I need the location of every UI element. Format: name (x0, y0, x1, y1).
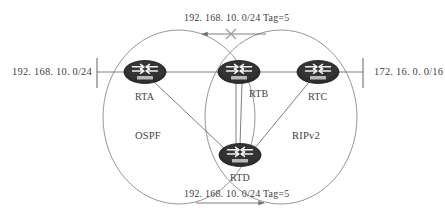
router-node-rtd[interactable] (219, 144, 261, 167)
router-node-rta[interactable] (124, 61, 166, 84)
zone-label-ripv2: RIPv2 (292, 130, 320, 141)
route-annotation-top-label: 192. 168. 10. 0/24 Tag=5 (184, 12, 289, 23)
router-node-rtc[interactable] (297, 61, 339, 84)
router-label-rta: RTA (135, 91, 154, 102)
route-annotation-bottom-label: 192. 168. 10. 0/24 Tag=5 (184, 188, 289, 199)
router-label-rtc: RTC (308, 91, 327, 102)
zone-ellipse-ripv2 (205, 30, 357, 204)
network-topology-diagram: 192. 168. 10. 0/24 Tag=5 192. 168. 10. 0… (0, 0, 445, 219)
router-label-rtb: RTB (249, 88, 268, 99)
router-node-rtb[interactable] (218, 61, 260, 84)
diagram-canvas (0, 0, 445, 219)
link-rtb-rtd (236, 83, 242, 145)
network-label-left: 192. 168. 10. 0/24 (12, 66, 92, 77)
router-label-rtd: RTD (230, 172, 250, 183)
zone-label-ospf: OSPF (135, 130, 161, 141)
network-label-right: 172. 16. 0. 0/16 (374, 66, 443, 77)
link-rta-rtd (152, 80, 226, 150)
